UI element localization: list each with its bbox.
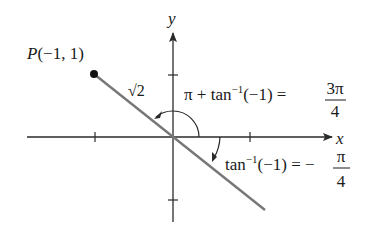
y-axis [168, 33, 178, 222]
y-axis-label: y [166, 9, 176, 28]
point-p [90, 70, 98, 78]
point-p-label: P(−1, 1) [26, 44, 84, 63]
angle-positive-expression: π + tan−1(−1) = 3π 4 [184, 79, 346, 121]
angle-arc-minus-pi-over-four [214, 137, 220, 158]
svg-text:tan−1(−1) = −: tan−1(−1) = − [225, 153, 315, 174]
diagram-canvas: x y P(−1, 1) √2 π + tan−1(−1) = 3π 4 [0, 0, 373, 228]
svg-text:π + tan−1(−1) =: π + tan−1(−1) = [184, 83, 286, 104]
segment-length-label: √2 [128, 82, 145, 99]
fraction-numerator: π [337, 147, 346, 166]
angle-arc-three-pi-over-four [156, 111, 199, 137]
fraction-denominator: 4 [337, 172, 346, 191]
fraction-numerator: 3π [326, 79, 344, 98]
angle-negative-expression: tan−1(−1) = − π 4 [225, 147, 350, 191]
x-axis-label: x [335, 129, 344, 148]
fraction-denominator: 4 [331, 102, 340, 121]
arrow-icon [154, 111, 162, 119]
